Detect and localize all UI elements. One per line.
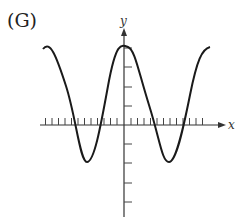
cosine-curve [43, 46, 210, 162]
y-axis-arrow-icon [121, 28, 127, 36]
y-axis-label: y [119, 14, 127, 28]
cosine-graph: x y [0, 0, 250, 219]
x-axis-label: x [228, 118, 235, 132]
x-axis-arrow-icon [218, 122, 226, 128]
